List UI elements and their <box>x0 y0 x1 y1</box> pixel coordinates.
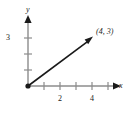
y-axis-tick-label-3: 3 <box>6 34 10 42</box>
y-axis-label: y <box>26 6 30 14</box>
x-axis-tick-label-2: 2 <box>58 95 62 103</box>
vector-figure: x y (4, 3) 3 2 4 <box>0 0 128 116</box>
x-axis-tick-label-4: 4 <box>90 95 94 103</box>
coordinate-plane-svg <box>0 0 128 116</box>
y-axis-arrowhead <box>24 15 31 23</box>
x-axis-label: x <box>119 82 123 90</box>
vector-shaft <box>28 42 88 86</box>
origin-point-dot <box>25 83 30 88</box>
point-coordinate-label: (4, 3) <box>96 28 113 36</box>
